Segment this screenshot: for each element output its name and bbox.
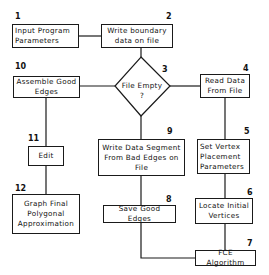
step-3-line-1: File Empty	[117, 81, 167, 90]
step-12-graph-final-polygonal-approximation: Graph Final Polygonal Approximation	[12, 194, 80, 234]
step-11-line-1: Edit	[38, 151, 53, 161]
step-1-line-2: Parameters	[15, 36, 70, 46]
step-5-line-3: Parameters	[200, 162, 244, 172]
step-12-line-2: Polygonal	[18, 209, 74, 219]
step-12-line-3: Approximation	[18, 219, 74, 229]
step-2-line-2: data on file	[107, 36, 167, 46]
step-5-set-vertex-placement-parameters: Set Vertex Placement Parameters	[197, 139, 250, 174]
step-number-11: 11	[28, 134, 39, 143]
step-9-write-data-segment-from-bad-edges: Write Data Segment From Bad Edges on Fil…	[98, 139, 185, 176]
step-number-5: 5	[244, 127, 250, 136]
step-7-fce-algorithm: FCE Algorithm	[195, 250, 256, 266]
step-6-line-2: Vertices	[199, 211, 249, 221]
step-1-line-1: Input Program	[15, 26, 70, 36]
step-number-8: 8	[166, 195, 172, 204]
step-9-line-2: From Bad Edges on	[102, 153, 180, 163]
step-6-locate-initial-vertices: Locate Initial Vertices	[195, 198, 253, 224]
step-11-edit: Edit	[28, 146, 64, 166]
step-2-write-boundary-data: Write boundary data on file	[101, 24, 173, 48]
step-2-line-1: Write boundary	[107, 26, 167, 36]
step-number-3: 3	[162, 65, 168, 74]
step-number-4: 4	[243, 64, 249, 73]
step-12-line-1: Graph Final	[18, 199, 74, 209]
step-number-12: 12	[15, 184, 26, 193]
step-10-line-2: Edges	[17, 87, 77, 97]
step-number-2: 2	[166, 12, 172, 21]
step-4-line-2: From File	[205, 86, 245, 96]
step-number-1: 1	[15, 12, 21, 21]
step-9-line-3: File	[102, 163, 180, 173]
step-number-6: 6	[247, 188, 253, 197]
step-number-10: 10	[15, 62, 26, 71]
step-6-line-1: Locate Initial	[199, 201, 249, 211]
step-4-line-1: Read Data	[205, 76, 245, 86]
step-9-line-1: Write Data Segment	[102, 143, 180, 153]
step-4-read-data-from-file: Read Data From File	[200, 74, 250, 98]
step-7-line-1: FCE Algorithm	[198, 248, 253, 268]
step-8-line-1: Save Good Edges	[106, 204, 173, 224]
step-5-line-2: Placement	[200, 152, 244, 162]
step-8-save-good-edges: Save Good Edges	[103, 205, 176, 223]
step-3-question-mark: ?	[117, 91, 167, 100]
step-10-line-1: Assemble Good	[17, 77, 77, 87]
step-3-file-empty-decision: File Empty ?	[117, 81, 167, 100]
step-number-7: 7	[247, 239, 253, 248]
step-10-assemble-good-edges: Assemble Good Edges	[13, 76, 80, 98]
step-1-input-program-parameters: Input Program Parameters	[12, 24, 79, 48]
step-number-9: 9	[167, 127, 173, 136]
step-5-line-1: Set Vertex	[200, 142, 244, 152]
